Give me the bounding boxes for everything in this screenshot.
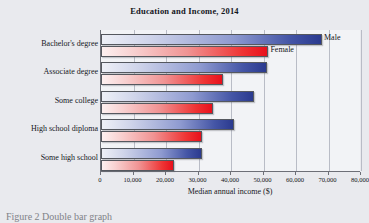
bar-female-3[interactable]	[101, 131, 202, 142]
x-tick	[198, 172, 199, 175]
y-axis-label-0: Bachelor's degree	[0, 39, 98, 48]
x-tick-label-8: 80,000	[351, 176, 369, 183]
bar-male-3[interactable]	[101, 119, 234, 130]
bar-male-2[interactable]	[101, 91, 254, 102]
bar-female-4[interactable]	[101, 160, 174, 171]
x-tick	[360, 172, 361, 175]
gridline	[296, 30, 297, 171]
x-axis-title: Median annual income ($)	[100, 187, 360, 196]
x-tick	[100, 172, 101, 175]
series-label-male: Male	[324, 33, 340, 42]
plot-area	[100, 30, 360, 172]
x-tick	[328, 172, 329, 175]
bar-female-0[interactable]	[101, 46, 268, 57]
gridline	[361, 30, 362, 171]
bar-male-1[interactable]	[101, 62, 267, 73]
y-axis-label-1: Associate degree	[0, 67, 98, 76]
x-tick-label-4: 40,000	[221, 176, 239, 183]
x-tick	[263, 172, 264, 175]
y-axis-label-3: High school diploma	[0, 124, 98, 133]
x-tick-label-2: 20,000	[156, 176, 174, 183]
x-tick	[165, 172, 166, 175]
x-tick	[295, 172, 296, 175]
x-tick-label-0: 0	[98, 176, 101, 183]
x-tick-label-5: 50,000	[253, 176, 271, 183]
x-tick-label-3: 30,000	[188, 176, 206, 183]
series-label-female: Female	[270, 45, 294, 54]
gridline	[329, 30, 330, 171]
bar-male-4[interactable]	[101, 148, 202, 159]
figure-caption: Figure 2 Double bar graph	[6, 211, 256, 223]
y-axis-label-2: Some college	[0, 96, 98, 105]
y-axis-label-4: Some high school	[0, 153, 98, 162]
bar-female-2[interactable]	[101, 103, 213, 114]
x-tick-label-1: 10,000	[123, 176, 141, 183]
figure-chart: Education and Income, 2014 Bachelor's de…	[0, 0, 369, 223]
x-tick	[230, 172, 231, 175]
x-axis: 010,00020,00030,00040,00050,00060,00070,…	[100, 172, 360, 188]
bar-male-0[interactable]	[101, 34, 322, 45]
chart-title: Education and Income, 2014	[0, 6, 369, 16]
x-tick-label-6: 60,000	[286, 176, 304, 183]
bar-female-1[interactable]	[101, 74, 223, 85]
x-tick-label-7: 70,000	[318, 176, 336, 183]
x-tick	[133, 172, 134, 175]
